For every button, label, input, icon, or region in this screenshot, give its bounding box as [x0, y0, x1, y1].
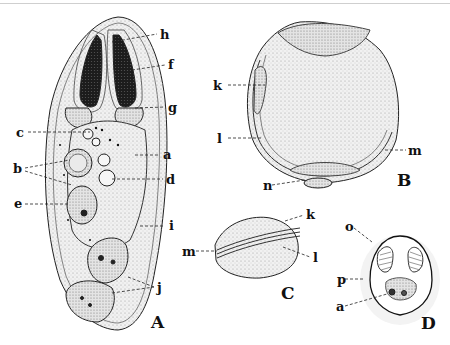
- label-c-k: k: [306, 208, 315, 221]
- label-a-b: b: [13, 162, 22, 175]
- label-a-e: e: [14, 197, 22, 210]
- label-a-c: c: [16, 126, 24, 139]
- panel-label-a: A: [151, 314, 164, 331]
- label-b-m: m: [408, 144, 422, 157]
- label-a-g: g: [168, 101, 177, 114]
- panel-label-b: B: [397, 172, 411, 189]
- label-d-p: p: [337, 273, 346, 286]
- panel-c-cell: [215, 217, 300, 278]
- label-c-l: l: [313, 251, 318, 264]
- panel-label-c: C: [281, 285, 295, 302]
- label-b-l: l: [217, 132, 222, 145]
- label-a-h: h: [160, 28, 169, 41]
- label-a-f: f: [168, 58, 174, 71]
- label-a-d: d: [166, 173, 175, 186]
- label-a-a: a: [163, 148, 171, 161]
- panel-b-cell: [247, 22, 398, 188]
- label-d-o: o: [345, 220, 354, 233]
- label-c-m: m: [182, 245, 196, 258]
- label-a-j: j: [157, 281, 162, 294]
- panel-d-cyst: [360, 235, 440, 325]
- label-b-n: n: [263, 179, 272, 192]
- panel-a-cell: [45, 17, 167, 330]
- label-a-i: i: [169, 219, 174, 232]
- label-b-k: k: [213, 79, 222, 92]
- panel-label-d: D: [421, 315, 436, 332]
- figure-drawing: [0, 0, 450, 345]
- label-d-a: a: [336, 300, 344, 313]
